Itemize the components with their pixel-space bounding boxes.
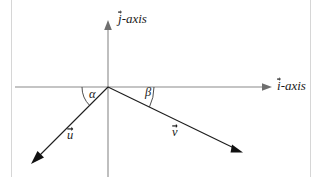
u-vector-label: u [67, 129, 73, 142]
v-vector-line [108, 87, 236, 149]
u-symbol: u [67, 129, 73, 142]
j-axis-suffix: -axis [122, 11, 147, 26]
j-symbol: j [118, 12, 122, 25]
j-axis-arrowhead [104, 20, 112, 30]
beta-angle-label: β [145, 86, 151, 99]
figure-canvas: j-axis i-axis α β u v [0, 0, 325, 177]
j-symbol-text: j [118, 11, 122, 26]
alpha-angle-label: α [89, 88, 96, 101]
u-vector-line [37, 87, 108, 158]
j-axis-label: j-axis [118, 12, 147, 25]
u-symbol-text: u [67, 128, 73, 142]
i-axis-label: i-axis [277, 79, 306, 92]
v-vector-arrowhead [231, 145, 244, 153]
i-symbol: i [277, 79, 281, 92]
v-symbol: v [172, 126, 178, 139]
i-axis-arrowhead [262, 83, 272, 91]
i-axis-suffix: -axis [281, 78, 306, 93]
v-vector-label: v [172, 126, 178, 139]
i-symbol-text: i [277, 78, 281, 93]
v-symbol-text: v [172, 125, 178, 139]
